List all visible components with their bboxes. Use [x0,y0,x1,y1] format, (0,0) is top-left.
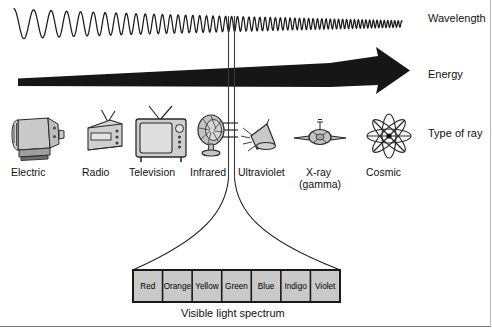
radio-icon [88,110,122,150]
spectrum-band-label-red: Red [140,282,155,291]
ray-label-radio: Radio [82,166,109,178]
diagram-canvas: RedOrangeYellowGreenBlueIndigoViolet [0,0,492,328]
axis-label-wavelength: Wavelength [428,12,486,24]
spectrum-band-label-violet: Violet [315,282,336,291]
cosmic-atom-icon [367,114,411,158]
visible-spectrum-box: RedOrangeYellowGreenBlueIndigoViolet [133,270,340,302]
wavelength-wave [14,9,402,39]
television-icon [136,106,186,162]
spectrum-band-label-indigo: Indigo [284,282,307,291]
uv-lamp-icon [241,119,276,151]
energy-arrow [18,47,410,94]
axis-label-type-of-ray: Type of ray [428,127,482,139]
ray-label-xray: X-ray [306,166,331,178]
xray-tube-icon [294,120,346,145]
ray-label-cosmic: Cosmic [366,166,401,178]
visible-spectrum-caption: Visible light spectrum [181,307,285,319]
ray-sublabel-xray-gamma: (gamma) [299,178,341,190]
spectrum-band-label-blue: Blue [258,282,275,291]
spectrum-band-label-orange: Orange [164,282,192,291]
ray-label-ultraviolet: Ultraviolet [238,166,285,178]
spectrum-funnel [134,178,339,270]
spectrum-band-label-green: Green [225,282,248,291]
electromagnetic-spectrum-figure: RedOrangeYellowGreenBlueIndigoViolet [0,0,492,328]
visible-light-band [229,16,235,178]
spectrum-band-label-yellow: Yellow [195,282,218,291]
ray-label-television: Television [129,166,175,178]
ray-label-infrared: Infrared [190,166,226,178]
ray-label-electric: Electric [11,166,45,178]
heat-lamp-icon [198,115,238,156]
axis-label-energy: Energy [428,68,463,80]
electric-motor-icon [12,118,64,161]
